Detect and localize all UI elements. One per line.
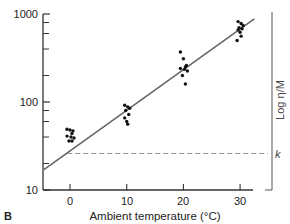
data-point	[235, 39, 238, 42]
data-point	[239, 34, 242, 37]
data-point	[65, 134, 68, 137]
data-point	[241, 24, 244, 27]
plot-area	[43, 12, 272, 190]
data-point	[65, 128, 68, 131]
right-axis-label: Log η/M	[274, 80, 286, 120]
y-tick-label-100: 100	[20, 96, 38, 108]
data-point	[70, 139, 73, 142]
data-point	[179, 50, 182, 53]
data-point	[236, 20, 239, 23]
x-tick-label-30: 30	[234, 195, 246, 207]
data-point	[240, 27, 243, 30]
panel-label: B	[4, 210, 12, 222]
data-point	[67, 139, 70, 142]
y-tick-label-10: 10	[26, 184, 38, 196]
chart: 1000 100 10 0 10 20 30 Ambient temperatu…	[0, 0, 290, 224]
data-point	[128, 107, 131, 110]
data-point	[184, 82, 187, 85]
k-label: k	[275, 148, 281, 160]
regression-line	[44, 19, 254, 170]
data-point	[123, 116, 126, 119]
data-point	[69, 135, 72, 138]
x-tick-label-20: 20	[177, 195, 189, 207]
data-point	[70, 132, 73, 135]
data-point	[186, 69, 189, 72]
x-tick-label-0: 0	[67, 195, 73, 207]
y-tick-label-1000: 1000	[14, 8, 38, 20]
data-point	[179, 67, 182, 70]
x-tick-label-10: 10	[121, 195, 133, 207]
data-point	[127, 113, 130, 116]
right-bracket	[265, 12, 272, 190]
data-point	[238, 31, 241, 34]
data-point	[181, 74, 184, 77]
data-point	[126, 122, 129, 125]
x-axis-title: Ambient temperature (°C)	[89, 210, 220, 222]
data-point	[124, 109, 127, 112]
data-point	[72, 136, 75, 139]
data-point	[123, 103, 126, 106]
data-point	[182, 57, 185, 60]
data-point	[68, 128, 71, 131]
data-point	[183, 68, 186, 71]
